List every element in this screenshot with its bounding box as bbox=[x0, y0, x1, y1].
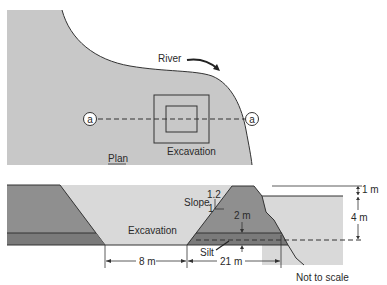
arrow-head-icon bbox=[240, 245, 244, 249]
plan-excavation-label: Excavation bbox=[167, 146, 216, 157]
land-area bbox=[7, 10, 252, 165]
section-marker-left-label: a bbox=[87, 114, 93, 125]
excavation-diagram: River a a Excavation Plan bbox=[0, 0, 387, 285]
section-excavation-label: Excavation bbox=[128, 225, 177, 236]
arrow-head-icon bbox=[188, 259, 193, 263]
arrow-head-icon bbox=[356, 197, 360, 200]
arrow-head-icon bbox=[181, 259, 186, 263]
dim-water-depth: 4 m bbox=[351, 212, 368, 223]
arrow-head-icon bbox=[356, 236, 360, 239]
plan-title: Plan bbox=[108, 153, 128, 164]
river-flow-arrow-icon bbox=[187, 59, 218, 69]
slope-run: 1 bbox=[208, 203, 214, 214]
section-view: Slope 1.2 1 2 m Silt Excavation 8 m 21 m bbox=[7, 184, 379, 283]
dim-dike-base: 21 m bbox=[220, 256, 242, 267]
section-marker-right-label: a bbox=[249, 114, 255, 125]
slope-rise: 1.2 bbox=[207, 189, 221, 200]
dim-bottom-width: 8 m bbox=[139, 256, 156, 267]
dim-freeboard: 1 m bbox=[362, 184, 379, 195]
arrow-head-icon bbox=[356, 186, 360, 189]
plan-view: River a a Excavation Plan bbox=[7, 10, 259, 165]
arrow-head-icon bbox=[356, 192, 360, 195]
dike-silt-layer bbox=[187, 233, 288, 245]
silt-label: Silt bbox=[200, 247, 214, 258]
left-silt-layer bbox=[7, 233, 105, 245]
river-label: River bbox=[158, 53, 182, 64]
not-to-scale-note: Not to scale bbox=[296, 272, 349, 283]
silt-depth-label: 2 m bbox=[234, 210, 251, 221]
arrow-head-icon bbox=[106, 259, 111, 263]
